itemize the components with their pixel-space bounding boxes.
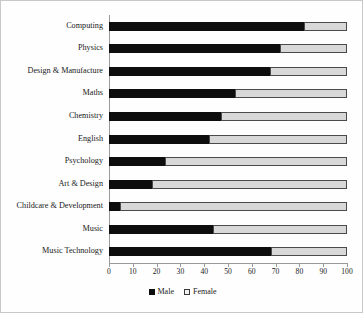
bar-row <box>109 225 347 234</box>
bar-segment-male <box>109 157 165 166</box>
legend-label: Female <box>193 287 217 296</box>
category-label: Physics <box>78 43 103 53</box>
bar-segment-female <box>165 157 347 166</box>
x-axis-tick-label: 0 <box>96 267 122 277</box>
x-axis-tick-label: 10 <box>120 267 146 277</box>
bar-segment-female <box>120 202 347 211</box>
category-label: Music Technology <box>42 246 103 256</box>
bar-row <box>109 247 347 256</box>
bar-segment-female <box>152 180 347 189</box>
x-axis-tick-label: 90 <box>310 267 336 277</box>
bar-row <box>109 89 347 98</box>
chart-title <box>1 1 362 11</box>
bar-row <box>109 44 347 53</box>
category-label: Psychology <box>65 156 103 166</box>
bar-row <box>109 157 347 166</box>
bar-segment-male <box>109 44 280 53</box>
bar-segment-male <box>109 202 120 211</box>
chart-container: ComputingPhysicsDesign & ManufactureMath… <box>0 0 363 313</box>
bar-segment-female <box>235 89 347 98</box>
bar-segment-male <box>109 180 152 189</box>
bar-segment-male <box>109 22 304 31</box>
bar-segment-female <box>213 225 347 234</box>
x-axis-tick-label: 80 <box>286 267 312 277</box>
bar-segment-male <box>109 112 221 121</box>
bar-segment-male <box>109 225 213 234</box>
bar-segment-female <box>271 247 347 256</box>
x-axis-tick-label: 20 <box>144 267 170 277</box>
category-label: Maths <box>83 88 103 98</box>
bar-segment-female <box>304 22 347 31</box>
x-axis-tick-label: 50 <box>215 267 241 277</box>
category-label: Chemistry <box>69 111 103 121</box>
bar-segment-male <box>109 89 235 98</box>
legend-item: Female <box>184 287 217 296</box>
x-axis-tick-label: 100 <box>334 267 360 277</box>
x-axis-tick-label: 30 <box>167 267 193 277</box>
category-label: Childcare & Development <box>17 201 103 211</box>
category-label: Music <box>83 224 103 234</box>
plot-area <box>109 15 347 263</box>
bar-row <box>109 135 347 144</box>
legend-item: Male <box>149 287 174 296</box>
bar-row <box>109 180 347 189</box>
bar-segment-female <box>280 44 347 53</box>
outlined-square-icon <box>184 289 190 295</box>
x-axis-tick-label: 60 <box>239 267 265 277</box>
bar-segment-female <box>270 67 347 76</box>
x-axis-tick-label: 40 <box>191 267 217 277</box>
bar-row <box>109 22 347 31</box>
bar-segment-male <box>109 135 209 144</box>
category-label: Computing <box>66 21 103 31</box>
category-label: Design & Manufacture <box>28 66 103 76</box>
bar-segment-female <box>209 135 347 144</box>
bar-row <box>109 67 347 76</box>
bar-row <box>109 202 347 211</box>
category-label: Art & Design <box>58 179 103 189</box>
chart-legend: MaleFemale <box>1 287 363 296</box>
bar-segment-male <box>109 67 270 76</box>
bar-row <box>109 112 347 121</box>
legend-label: Male <box>158 287 174 296</box>
category-label: English <box>78 134 103 144</box>
filled-square-icon <box>149 289 155 295</box>
bar-segment-male <box>109 247 271 256</box>
bar-segment-female <box>221 112 347 121</box>
x-axis-tick-label: 70 <box>263 267 289 277</box>
category-axis: ComputingPhysicsDesign & ManufactureMath… <box>1 15 106 263</box>
